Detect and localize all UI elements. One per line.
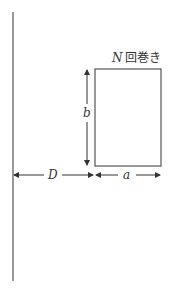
- dimension-D-label: D: [47, 168, 58, 182]
- dimension-b: b: [83, 70, 91, 165]
- dimension-a-label: a: [123, 168, 130, 182]
- coil-turns-variable: N: [111, 51, 123, 65]
- dimension-a: a: [96, 168, 160, 182]
- dimension-D: D: [14, 168, 93, 182]
- coil-label: N回巻き: [111, 51, 161, 65]
- coil-turns-suffix: 回巻き: [125, 51, 161, 65]
- rectangular-coil: [95, 69, 161, 166]
- dimension-b-label: b: [83, 106, 91, 120]
- wire-coil-diagram: N回巻き b D a: [0, 0, 170, 292]
